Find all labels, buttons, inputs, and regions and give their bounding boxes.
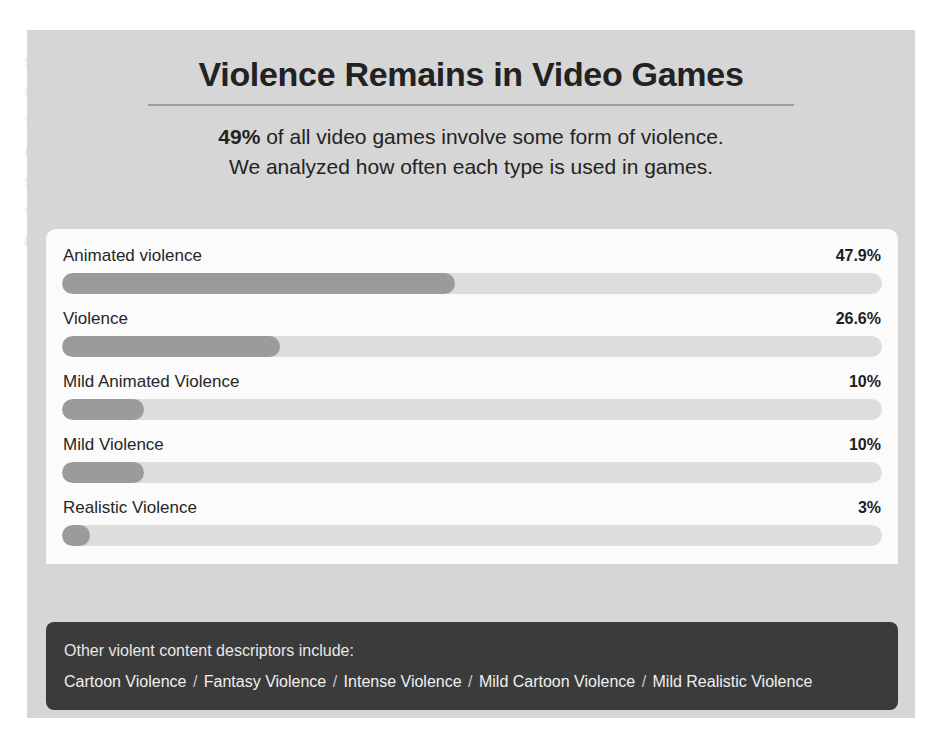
- footer-descriptor-item: Mild Cartoon Violence: [479, 673, 635, 690]
- bar-chart-card: Animated violence47.9%Violence26.6%Mild …: [46, 229, 898, 564]
- bar-row: Violence26.6%: [62, 308, 882, 357]
- bar-row: Mild Animated Violence10%: [62, 371, 882, 420]
- footer-descriptor-item: Mild Realistic Violence: [653, 673, 813, 690]
- bar-label: Animated violence: [63, 245, 202, 267]
- footer-separator: /: [635, 673, 652, 690]
- title-underline-rule: [148, 104, 794, 106]
- footer-descriptor-list: Cartoon Violence / Fantasy Violence / In…: [64, 670, 880, 694]
- bar-label: Violence: [63, 308, 128, 330]
- bar-row: Mild Violence10%: [62, 434, 882, 483]
- subtitle-line-2: We analyzed how often each type is used …: [121, 152, 821, 182]
- bar-fill: [62, 462, 144, 483]
- subtitle-line-1: 49% of all video games involve some form…: [121, 122, 821, 152]
- bar-fill: [62, 399, 144, 420]
- page-title: Violence Remains in Video Games: [27, 52, 915, 96]
- bar-header: Animated violence47.9%: [62, 245, 882, 273]
- subtitle: 49% of all video games involve some form…: [121, 122, 821, 182]
- bar-label: Realistic Violence: [63, 497, 197, 519]
- footer-descriptor-item: Cartoon Violence: [64, 673, 186, 690]
- bar-header: Violence26.6%: [62, 308, 882, 336]
- header: Violence Remains in Video Games 49% of a…: [27, 30, 915, 182]
- bar-label: Mild Violence: [63, 434, 164, 456]
- bar-header: Mild Animated Violence10%: [62, 371, 882, 399]
- bar-track: [62, 525, 882, 546]
- bar-label: Mild Animated Violence: [63, 371, 239, 393]
- bar-header: Mild Violence10%: [62, 434, 882, 462]
- footer-separator: /: [186, 673, 203, 690]
- bar-value-label: 47.9%: [836, 245, 881, 267]
- subtitle-line-1-rest: of all video games involve some form of …: [260, 125, 723, 148]
- bar-list: Animated violence47.9%Violence26.6%Mild …: [62, 245, 882, 546]
- bar-track: [62, 399, 882, 420]
- bar-row: Animated violence47.9%: [62, 245, 882, 294]
- bar-track: [62, 273, 882, 294]
- bar-row: Realistic Violence3%: [62, 497, 882, 546]
- subtitle-stat: 49%: [218, 125, 260, 148]
- bar-value-label: 10%: [849, 434, 881, 456]
- infographic-panel: Violence Remains in Video Games 49% of a…: [27, 30, 915, 718]
- bar-value-label: 26.6%: [836, 308, 881, 330]
- bar-track: [62, 462, 882, 483]
- footer-note: Other violent content descriptors includ…: [46, 622, 898, 710]
- bar-track: [62, 336, 882, 357]
- bar-fill: [62, 273, 455, 294]
- footer-descriptor-item: Fantasy Violence: [204, 673, 326, 690]
- bar-header: Realistic Violence3%: [62, 497, 882, 525]
- bar-fill: [62, 525, 90, 546]
- bar-value-label: 3%: [858, 497, 881, 519]
- bar-value-label: 10%: [849, 371, 881, 393]
- footer-separator: /: [462, 673, 479, 690]
- footer-descriptor-item: Intense Violence: [344, 673, 462, 690]
- footer-separator: /: [326, 673, 343, 690]
- bar-fill: [62, 336, 280, 357]
- footer-lead-text: Other violent content descriptors includ…: [64, 639, 880, 663]
